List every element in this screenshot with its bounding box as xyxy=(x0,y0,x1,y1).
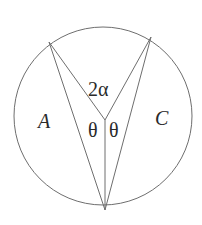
angle-label-2alpha: 2α xyxy=(88,78,109,100)
segment-top-right-to-center xyxy=(105,37,151,120)
region-label-c: C xyxy=(155,107,169,129)
region-label-a: A xyxy=(36,110,51,132)
angle-label-theta-left: θ xyxy=(88,119,98,141)
angle-label-theta-right: θ xyxy=(109,119,119,141)
circle-angle-diagram: 2α A C θ θ xyxy=(0,0,202,225)
